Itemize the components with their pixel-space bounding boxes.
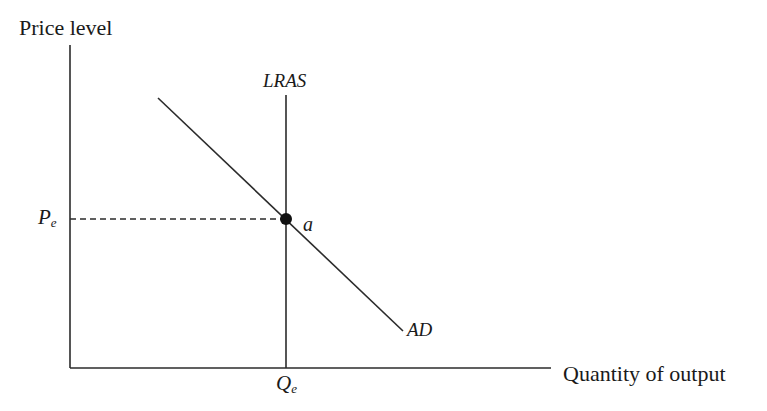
- price-equilibrium-label: Pe: [38, 207, 57, 229]
- equilibrium-point: [280, 213, 292, 225]
- diagram-canvas: [0, 0, 767, 411]
- quantity-label-sub: e: [291, 381, 297, 396]
- ad-label: AD: [407, 320, 432, 339]
- equilibrium-point-label: a: [303, 214, 313, 234]
- lras-label: LRAS: [263, 71, 306, 90]
- price-label-sub: e: [51, 215, 57, 230]
- ad-lras-diagram: Price level Quantity of output LRAS AD P…: [0, 0, 767, 411]
- y-axis-label: Price level: [19, 17, 112, 39]
- ad-curve: [158, 98, 403, 331]
- price-label-main: P: [38, 205, 51, 229]
- quantity-label-main: Q: [276, 371, 291, 395]
- x-axis-label: Quantity of output: [563, 363, 726, 385]
- quantity-equilibrium-label: Qe: [276, 373, 297, 395]
